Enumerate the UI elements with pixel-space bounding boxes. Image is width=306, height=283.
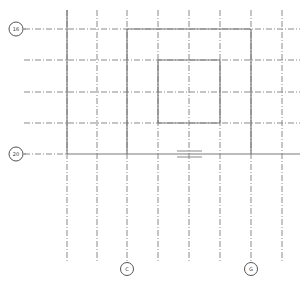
bubble-label-g: G [249,266,253,272]
grid-bubble-col-c: C [121,263,134,276]
bubble-label-16: 16 [13,26,19,32]
dash-dot-gridlines [24,10,300,262]
grid-bubble-row-16: 16 [9,22,23,36]
grid-bubble-col-g: G [245,263,258,276]
grid-bubble-row-20: 20 [9,147,23,161]
solid-beam-lines [67,10,300,154]
bubble-label-c: C [125,266,129,272]
bubble-label-20: 20 [13,151,19,157]
grid-plan-drawing: 16 20 C G [0,0,306,283]
